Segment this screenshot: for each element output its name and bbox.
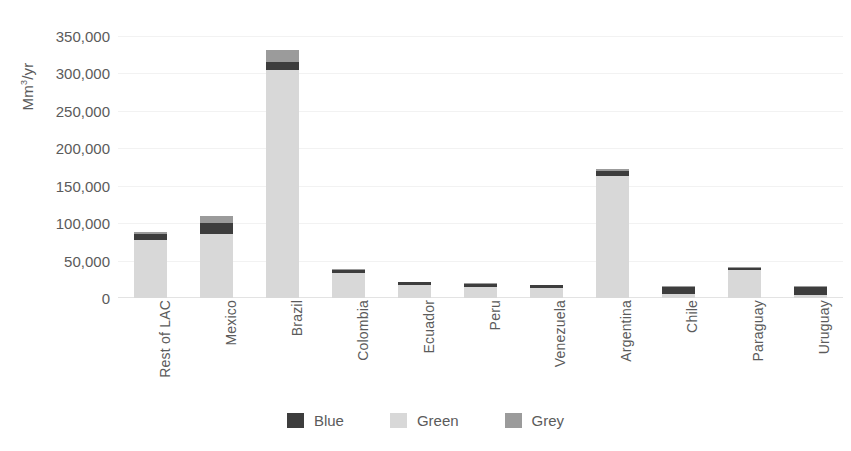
bar-segment-blue [266, 62, 299, 69]
bar-segment-green [530, 288, 563, 298]
legend-label: Grey [532, 413, 565, 428]
bar-segment-blue [794, 287, 827, 295]
stacked-bar-chart: Mm3/yr 050,000100,000150,000200,000250,0… [0, 0, 851, 451]
x-axis-label: Brazil [289, 300, 305, 336]
gridline [118, 73, 843, 74]
bar-segment-green [200, 234, 233, 298]
x-axis-label: Uruguay [816, 300, 832, 354]
gridline [118, 111, 843, 112]
bar-segment-green [398, 285, 431, 298]
bar-stack [596, 169, 629, 298]
y-axis-tick-label: 200,000 [6, 140, 110, 157]
x-axis-category-labels: Rest of LACMexicoBrazilColombiaEcuadorPe… [118, 300, 843, 400]
bar-segment-grey [266, 50, 299, 62]
legend-item[interactable]: Blue [287, 413, 344, 428]
legend-label: Blue [314, 413, 344, 428]
bar-stack [728, 267, 761, 298]
y-axis-tick-label: 150,000 [6, 177, 110, 194]
legend-item[interactable]: Grey [505, 413, 565, 428]
legend-item[interactable]: Green [390, 413, 459, 428]
bar-stack [134, 232, 167, 298]
x-axis-label: Mexico [223, 300, 239, 346]
bar-stack [332, 269, 365, 298]
x-axis-label: Rest of LAC [157, 300, 173, 378]
bar-stack [662, 286, 695, 298]
plot-area [118, 36, 843, 298]
bar-stack [200, 216, 233, 298]
y-axis-tick-labels: 050,000100,000150,000200,000250,000300,0… [6, 36, 110, 298]
bar-stack [266, 50, 299, 298]
y-axis-tick-label: 100,000 [6, 215, 110, 232]
legend-swatch-icon [390, 413, 407, 428]
bar-stack [398, 282, 431, 298]
bar-segment-green [332, 273, 365, 298]
x-axis-label: Peru [487, 300, 503, 330]
x-axis-label: Chile [684, 300, 700, 333]
x-axis-label: Colombia [355, 300, 371, 361]
x-axis-label: Ecuador [421, 300, 437, 354]
bar-segment-green [794, 295, 827, 298]
bar-segment-blue [662, 287, 695, 294]
y-axis-tick-label: 50,000 [6, 252, 110, 269]
legend-swatch-icon [287, 413, 304, 428]
bar-segment-blue [200, 223, 233, 233]
bar-segment-green [464, 287, 497, 298]
bar-segment-green [728, 270, 761, 298]
chart-legend: BlueGreenGrey [0, 413, 851, 428]
y-axis-tick-label: 350,000 [6, 28, 110, 45]
bar-segment-green [596, 176, 629, 298]
gridline [118, 186, 843, 187]
x-axis-label: Argentina [618, 300, 634, 362]
y-axis-tick-label: 300,000 [6, 65, 110, 82]
x-axis-label: Paraguay [750, 300, 766, 362]
bar-segment-green [662, 294, 695, 298]
y-axis-tick-label: 0 [6, 290, 110, 307]
plot-inner [118, 36, 843, 298]
bar-stack [464, 283, 497, 298]
legend-swatch-icon [505, 413, 522, 428]
bar-segment-green [134, 240, 167, 298]
bar-stack [530, 285, 563, 298]
gridline [118, 148, 843, 149]
bar-segment-green [266, 70, 299, 298]
gridline [118, 36, 843, 37]
y-axis-tick-label: 250,000 [6, 102, 110, 119]
bar-stack [794, 286, 827, 298]
bar-segment-grey [200, 216, 233, 223]
x-axis-label: Venezuela [552, 300, 568, 367]
legend-label: Green [417, 413, 459, 428]
